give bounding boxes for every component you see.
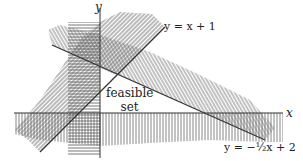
y-axis-label: y (95, 0, 102, 14)
x-axis-label: x (286, 106, 293, 120)
feasible-label-line2: set (106, 100, 153, 114)
feasible-set-label: feasible set (106, 86, 153, 114)
feasible-set-diagram: y x y = x + 1 y = −½x + 2 feasible set (0, 0, 303, 161)
line1-label: y = x + 1 (164, 20, 216, 33)
line2-label: y = −½x + 2 (224, 141, 296, 154)
feasible-label-line1: feasible (106, 86, 153, 100)
diagram-canvas (0, 0, 303, 161)
